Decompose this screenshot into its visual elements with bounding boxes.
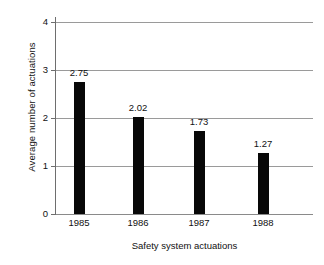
- bar-chart-figure: Average number of actuations 4 3 2 1 0 2…: [0, 0, 324, 265]
- y-tick-label-3: 3: [43, 65, 48, 75]
- y-tick-label-2: 2: [43, 113, 48, 123]
- y-axis-spine: [55, 17, 56, 214]
- y-tick-label-1: 1: [43, 161, 48, 171]
- gridline-3: [56, 70, 313, 71]
- bar-1985: [74, 82, 85, 214]
- y-tick-mark-2: [51, 118, 56, 119]
- x-axis-title: Safety system actuations: [56, 240, 313, 251]
- x-tick-label-1985: 1985: [68, 218, 89, 228]
- gridline-0-baseline: [56, 214, 313, 215]
- x-tick-label-1988: 1988: [252, 218, 273, 228]
- x-tick-label-1986: 1986: [127, 218, 148, 228]
- gridline-1: [56, 166, 313, 167]
- x-tick-label-1987: 1987: [188, 218, 209, 228]
- y-axis-title: Average number of actuations: [20, 0, 42, 214]
- bar-value-1988: 1.27: [254, 139, 273, 149]
- bar-1988: [258, 153, 269, 214]
- y-tick-label-4: 4: [43, 17, 48, 27]
- y-tick-label-0: 0: [43, 209, 48, 219]
- gridline-4: [56, 22, 313, 23]
- y-tick-mark-0: [51, 214, 56, 215]
- y-tick-mark-1: [51, 166, 56, 167]
- bar-value-1985: 2.75: [70, 68, 89, 78]
- plot-area: 4 3 2 1 0 2.75 1985 2.02 1986 1.73 1987 …: [56, 22, 313, 214]
- y-tick-mark-4: [51, 22, 56, 23]
- y-tick-mark-3: [51, 70, 56, 71]
- bar-value-1986: 2.02: [129, 103, 148, 113]
- bar-1987: [194, 131, 205, 214]
- bar-1986: [133, 117, 144, 214]
- gridline-2: [56, 118, 313, 119]
- bar-value-1987: 1.73: [190, 117, 209, 127]
